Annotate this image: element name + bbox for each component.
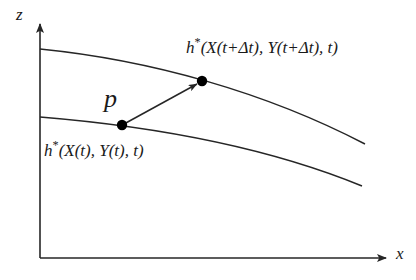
lower-label-function: h <box>44 141 53 160</box>
lower-label-arguments: (X(t), Y(t), t) <box>59 141 144 160</box>
point-label-p: p <box>104 86 117 112</box>
upper-point-marker <box>197 76 207 86</box>
upper-surface-curve <box>40 49 365 144</box>
horizontal-axis-label: x <box>396 245 404 262</box>
displacement-arrow <box>124 84 197 124</box>
upper-label-arguments: (X(t+Δt), Y(t+Δt), t) <box>201 38 338 57</box>
figure-canvas: z x p h*(X(t+Δt), Y(t+Δt), t) h*(X(t), Y… <box>0 0 416 280</box>
lower-point-marker <box>117 120 127 130</box>
upper-surface-label: h*(X(t+Δt), Y(t+Δt), t) <box>186 36 338 56</box>
lower-surface-label: h*(X(t), Y(t), t) <box>44 139 144 159</box>
upper-label-function: h <box>186 38 195 57</box>
vertical-axis-label: z <box>16 6 23 23</box>
